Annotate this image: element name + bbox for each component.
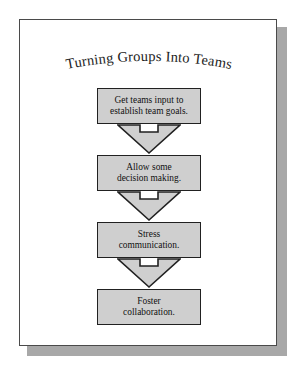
flowchart: Get teams input to establish team goals.…: [20, 88, 278, 325]
down-arrow-icon: [117, 191, 181, 222]
flow-connector-2: [20, 191, 278, 222]
flow-node-row: Get teams input to establish team goals.: [20, 88, 278, 124]
flow-node-3-label: Stress communication.: [119, 229, 180, 250]
slide-card: Turning Groups Into Teams Get teams inpu…: [19, 19, 277, 346]
flow-node-2[interactable]: Allow some decision making.: [97, 155, 201, 191]
flow-node-3[interactable]: Stress communication.: [97, 222, 201, 258]
page-title: Turning Groups Into Teams: [20, 50, 278, 80]
title-arc-svg: Turning Groups Into Teams: [34, 50, 264, 78]
flow-node-row: Allow some decision making.: [20, 155, 278, 191]
flow-node-4-label: Foster collaboration.: [123, 296, 175, 317]
flow-node-1-label: Get teams input to establish team goals.: [110, 95, 188, 116]
flow-node-2-label: Allow some decision making.: [117, 162, 181, 183]
flow-node-4[interactable]: Foster collaboration.: [97, 289, 201, 325]
down-arrow-icon: [117, 258, 181, 289]
flow-connector-3: [20, 258, 278, 289]
flow-node-row: Foster collaboration.: [20, 289, 278, 325]
down-arrow-icon: [117, 124, 181, 155]
flow-node-row: Stress communication.: [20, 222, 278, 258]
flow-node-1[interactable]: Get teams input to establish team goals.: [97, 88, 201, 124]
flow-connector-1: [20, 124, 278, 155]
page-title-text: Turning Groups Into Teams: [64, 50, 234, 72]
